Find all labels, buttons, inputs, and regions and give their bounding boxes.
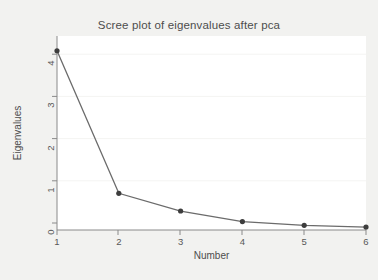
x-tick-label: 3	[171, 236, 191, 247]
data-point	[178, 208, 183, 213]
y-tick-label: 1	[45, 187, 56, 201]
y-tick-label: 3	[45, 103, 56, 117]
data-point	[302, 223, 307, 228]
y-tick-label: 2	[45, 145, 56, 159]
data-point	[363, 224, 368, 229]
scree-plot-figure: Scree plot of eigenvalues after pca	[0, 0, 378, 280]
x-tick-label: 4	[232, 236, 252, 247]
x-tick-label: 6	[356, 236, 376, 247]
data-point	[54, 48, 59, 53]
x-axis-title: Number	[57, 250, 366, 261]
y-tick-label: 4	[45, 61, 56, 75]
data-point	[116, 191, 121, 196]
x-tick-label: 2	[109, 236, 129, 247]
data-point	[240, 219, 245, 224]
gridlines	[57, 54, 366, 181]
x-tick-label: 5	[294, 236, 314, 247]
x-tick-label: 1	[47, 236, 67, 247]
x-axis-ticks	[57, 230, 366, 235]
y-axis-title: Eigenvalues	[12, 106, 23, 160]
